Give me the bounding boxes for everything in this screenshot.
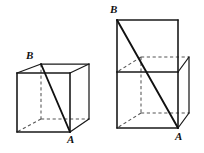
- figure-page: B A B A: [0, 0, 204, 153]
- right-prism-bottom-right-receding-edge: [178, 113, 189, 128]
- right-figure-label-a: A: [175, 131, 182, 142]
- left-cube-bottom-right-receding-edge: [70, 119, 89, 132]
- left-cube-top-right-receding-edge: [70, 64, 89, 73]
- left-cube-group: [17, 64, 89, 132]
- geometry-illustration: [0, 0, 204, 153]
- left-cube-hidden-edge-left: [17, 119, 41, 132]
- left-figure-label-b: B: [26, 50, 33, 61]
- right-figure-label-b: B: [110, 4, 117, 15]
- right-prism-group: [117, 20, 189, 128]
- left-cube-diagonal-BA: [41, 64, 70, 132]
- right-prism-hidden-edge-left: [117, 113, 141, 128]
- left-figure-label-a: A: [67, 134, 74, 145]
- left-cube-top-left-receding-edge: [17, 64, 41, 73]
- right-prism-diagonal-BA: [117, 20, 178, 128]
- right-prism-mid-right-receding-edge: [178, 57, 189, 72]
- right-prism-hidden-mid-receding-edge: [117, 57, 141, 72]
